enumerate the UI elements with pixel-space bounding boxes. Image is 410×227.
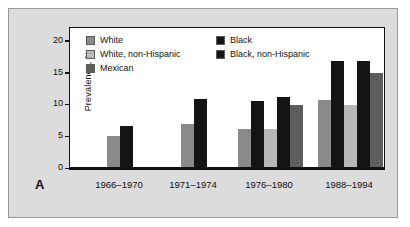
panel-label: A [35,177,44,192]
bar [290,105,303,168]
bar [264,129,277,168]
bar [251,101,264,168]
bar [318,100,331,167]
bar [194,99,207,168]
x-axis-label: 1988–1994 [314,179,384,190]
bar [120,126,133,167]
bar-group [107,28,133,168]
bar [344,105,357,168]
bar-group [318,28,383,168]
x-axis-label: 1971–1974 [158,179,228,190]
bar [181,124,194,168]
bar [107,136,120,168]
x-axis-line [69,167,385,170]
plot-area: Prevalence, % 05101520 WhiteWhite, non-H… [69,27,385,170]
bar-group [181,28,207,168]
figure-panel: A Prevalence, % 05101520 WhiteWhite, non… [8,8,398,218]
bar [331,61,344,168]
y-axis-tick-label: 15 [53,67,63,77]
bar [238,129,251,167]
y-axis-tick-label: 5 [58,130,63,140]
bars-canvas [70,28,384,169]
y-axis-tick-label: 10 [53,98,63,108]
bar [357,61,370,167]
y-axis-tick-label: 20 [53,35,63,45]
bar-group [238,28,303,168]
bar [370,73,383,167]
x-axis-label: 1966–1970 [84,179,154,190]
x-axis-label: 1976–1980 [234,179,304,190]
y-axis-tick-label: 0 [58,162,63,172]
bar [277,97,290,168]
